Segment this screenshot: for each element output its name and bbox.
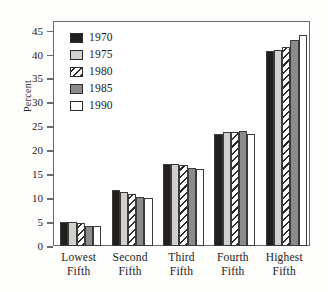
bar-1980-highest-fifth[interactable] bbox=[282, 47, 290, 246]
legend-item-1970[interactable]: 1970 bbox=[70, 30, 113, 45]
bar-group-highest-fifth bbox=[259, 21, 310, 246]
bar-chart: Percent 051015202530354045 1970197519801… bbox=[0, 0, 328, 292]
bar-1990-fourth-fifth[interactable] bbox=[247, 134, 255, 246]
bar-1985-lowest-fifth[interactable] bbox=[85, 226, 93, 246]
legend-item-1990[interactable]: 1990 bbox=[70, 98, 113, 113]
y-tick-label: 10 bbox=[16, 193, 43, 204]
x-label-lowest-fifth: LowestFifth bbox=[53, 250, 104, 278]
x-label-line1: Fourth bbox=[207, 250, 258, 264]
x-label-fourth-fifth: FourthFifth bbox=[207, 250, 258, 278]
legend-label: 1980 bbox=[89, 66, 113, 78]
bar-1980-fourth-fifth[interactable] bbox=[231, 132, 239, 246]
bar-1990-second-fifth[interactable] bbox=[144, 198, 152, 246]
y-tick-label: 25 bbox=[16, 121, 43, 132]
legend-label: 1970 bbox=[89, 32, 113, 44]
bar-1975-third-fifth[interactable] bbox=[171, 164, 179, 246]
bar-1985-fourth-fifth[interactable] bbox=[239, 131, 247, 246]
legend-swatch-icon bbox=[70, 33, 83, 43]
bar-group-third-fifth bbox=[156, 21, 207, 246]
bar-1980-second-fifth[interactable] bbox=[128, 194, 136, 246]
legend-item-1980[interactable]: 1980 bbox=[70, 64, 113, 79]
legend-item-1975[interactable]: 1975 bbox=[70, 47, 113, 62]
bar-1975-fourth-fifth[interactable] bbox=[223, 132, 231, 246]
x-label-line2: Fifth bbox=[104, 264, 155, 278]
bar-1990-third-fifth[interactable] bbox=[196, 169, 204, 246]
bar-1990-lowest-fifth[interactable] bbox=[93, 226, 101, 246]
bar-1970-lowest-fifth[interactable] bbox=[60, 222, 68, 246]
x-label-line2: Fifth bbox=[259, 264, 310, 278]
x-label-highest-fifth: HighestFifth bbox=[259, 250, 310, 278]
bar-1975-second-fifth[interactable] bbox=[120, 192, 128, 246]
legend-label: 1975 bbox=[89, 49, 113, 61]
chart-legend: 19701975198019851990 bbox=[70, 30, 113, 115]
x-label-line2: Fifth bbox=[207, 264, 258, 278]
legend-swatch-icon bbox=[70, 84, 83, 94]
bar-1985-third-fifth[interactable] bbox=[188, 168, 196, 247]
legend-swatch-icon bbox=[70, 67, 83, 77]
y-tick-label: 35 bbox=[16, 73, 43, 84]
x-label-line1: Lowest bbox=[53, 250, 104, 264]
y-tick-label: 15 bbox=[16, 169, 43, 180]
x-label-line2: Fifth bbox=[53, 264, 104, 278]
legend-item-1985[interactable]: 1985 bbox=[70, 81, 113, 96]
y-tick-label: 5 bbox=[16, 217, 43, 228]
bar-1970-third-fifth[interactable] bbox=[163, 164, 171, 246]
tick-mark bbox=[47, 246, 53, 248]
y-tick-label: 20 bbox=[16, 145, 43, 156]
x-label-line1: Highest bbox=[259, 250, 310, 264]
x-label-line2: Fifth bbox=[156, 264, 207, 278]
y-tick-label: 0 bbox=[16, 241, 43, 252]
bar-1970-second-fifth[interactable] bbox=[112, 190, 120, 246]
y-tick-label: 45 bbox=[16, 26, 43, 37]
x-label-second-fifth: SecondFifth bbox=[104, 250, 155, 278]
legend-swatch-icon bbox=[70, 50, 83, 60]
bar-1980-third-fifth[interactable] bbox=[179, 165, 187, 246]
legend-label: 1985 bbox=[89, 83, 113, 95]
bar-1980-lowest-fifth[interactable] bbox=[77, 223, 85, 246]
y-tick-label: 40 bbox=[16, 50, 43, 61]
x-label-line1: Second bbox=[104, 250, 155, 264]
bar-1975-highest-fifth[interactable] bbox=[274, 50, 282, 246]
x-axis-labels: LowestFifthSecondFifthThirdFifthFourthFi… bbox=[53, 250, 310, 292]
bar-1985-highest-fifth[interactable] bbox=[290, 40, 298, 246]
legend-swatch-icon bbox=[70, 101, 83, 111]
x-label-third-fifth: ThirdFifth bbox=[156, 250, 207, 278]
bar-1975-lowest-fifth[interactable] bbox=[68, 222, 76, 246]
bar-group-fourth-fifth bbox=[207, 21, 258, 246]
bar-1970-fourth-fifth[interactable] bbox=[214, 134, 222, 246]
bar-1990-highest-fifth[interactable] bbox=[299, 35, 307, 246]
bar-1970-highest-fifth[interactable] bbox=[266, 51, 274, 246]
x-label-line1: Third bbox=[156, 250, 207, 264]
bar-1985-second-fifth[interactable] bbox=[136, 197, 144, 246]
legend-label: 1990 bbox=[89, 100, 113, 112]
y-tick-label: 30 bbox=[16, 97, 43, 108]
